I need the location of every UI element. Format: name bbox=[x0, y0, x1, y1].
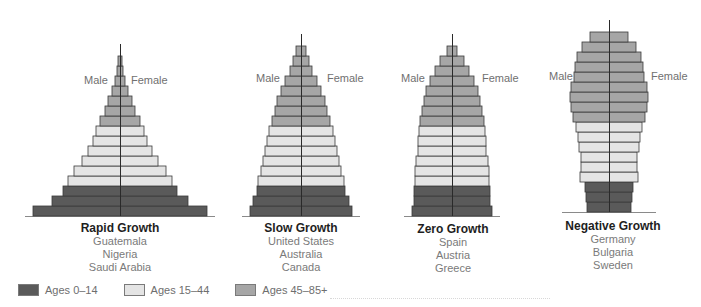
pyramid-zero-growth bbox=[404, 34, 500, 217]
female-label-negative: Female bbox=[651, 70, 688, 82]
legend-swatch-medium bbox=[235, 284, 256, 296]
pyramid-title: Zero Growth bbox=[373, 222, 533, 236]
legend: Ages 0–14 Ages 15–44 Ages 45–85+ bbox=[18, 284, 353, 296]
pyramid-title: Slow Growth bbox=[221, 221, 381, 235]
pyramid-negative-growth bbox=[562, 20, 656, 213]
legend-swatch-dark bbox=[18, 284, 39, 296]
legend-label: Ages 0–14 bbox=[45, 284, 98, 296]
caption-slow-growth: Slow Growth United States Australia Cana… bbox=[221, 221, 381, 274]
country-name: Sweden bbox=[533, 259, 693, 272]
country-name: Saudi Arabia bbox=[40, 261, 200, 274]
country-name: Bulgaria bbox=[533, 246, 693, 259]
country-name: Austria bbox=[373, 249, 533, 262]
female-label-slow: Female bbox=[327, 72, 364, 84]
country-name: Germany bbox=[533, 233, 693, 246]
male-label-slow: Male bbox=[256, 72, 280, 84]
legend-label: Ages 45–85+ bbox=[262, 284, 327, 296]
country-name: Spain bbox=[373, 236, 533, 249]
caption-rapid-growth: Rapid Growth Guatemala Nigeria Saudi Ara… bbox=[40, 221, 200, 274]
legend-swatch-light bbox=[124, 284, 145, 296]
legend-item-ages-0-14: Ages 0–14 bbox=[18, 284, 98, 296]
pyramid-title: Negative Growth bbox=[533, 219, 693, 233]
female-label-rapid: Female bbox=[131, 74, 168, 86]
faint-footnote-line bbox=[330, 298, 550, 302]
pyramid-slow-growth bbox=[242, 34, 360, 217]
country-name: Canada bbox=[221, 261, 381, 274]
male-label-zero: Male bbox=[401, 72, 425, 84]
country-name: United States bbox=[221, 235, 381, 248]
country-name: Nigeria bbox=[40, 248, 200, 261]
female-label-zero: Female bbox=[482, 72, 519, 84]
caption-zero-growth: Zero Growth Spain Austria Greece bbox=[373, 222, 533, 275]
male-label-rapid: Male bbox=[84, 74, 108, 86]
country-name: Greece bbox=[373, 262, 533, 275]
male-label-negative: Male bbox=[549, 70, 573, 82]
country-name: Guatemala bbox=[40, 235, 200, 248]
pyramid-rapid-growth bbox=[25, 44, 215, 217]
country-name: Australia bbox=[221, 248, 381, 261]
legend-label: Ages 15–44 bbox=[151, 284, 210, 296]
legend-item-ages-15-44: Ages 15–44 bbox=[124, 284, 210, 296]
pyramid-title: Rapid Growth bbox=[40, 221, 200, 235]
caption-negative-growth: Negative Growth Germany Bulgaria Sweden bbox=[533, 219, 693, 272]
legend-item-ages-45-85: Ages 45–85+ bbox=[235, 284, 327, 296]
